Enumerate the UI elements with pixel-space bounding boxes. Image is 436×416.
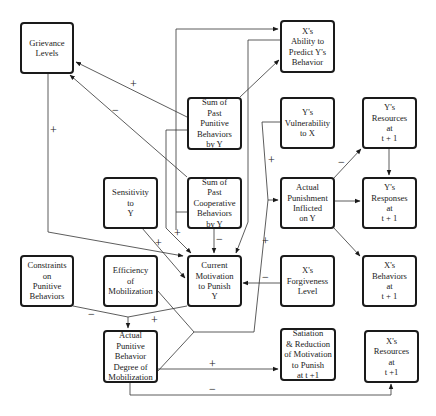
sign-vulnerability-to-punishment: + [268, 154, 275, 166]
node-actual-punishment: Actual Punishment Inflicted on Y [280, 177, 335, 229]
node-y-vulnerability: Y's Vulnerability to X [280, 97, 335, 149]
sign-motivation-to-behavior: + [151, 314, 158, 326]
sign-punitive-to-motivation: + [174, 227, 181, 239]
node-label: Sum of Past Cooperative Behaviors by Y [194, 177, 236, 229]
node-y-responses: Y's Responses at t + 1 [362, 177, 417, 229]
node-x-resources: X's Resources at t +1 [364, 330, 419, 383]
node-label: Actual Punishment Inflicted on Y [287, 182, 328, 224]
causal-diagram: Grievance Levels X's Ability to Predict … [0, 0, 436, 416]
node-grievance-levels: Grievance Levels [20, 22, 74, 74]
sign-constraints-to-behavior: − [88, 308, 95, 320]
sign-cooperative-to-motivation: − [216, 233, 223, 245]
sign-sensitivity-to-motivation: + [155, 237, 162, 249]
node-label: X's Resources at t +1 [374, 336, 409, 378]
node-label: Grievance Levels [29, 38, 64, 59]
arrow-behavior-to-x-resources [130, 382, 391, 395]
node-label: Sum of Past Punitive Behaviors by Y [197, 97, 232, 149]
sign-grievance-to-motivation: + [50, 124, 57, 136]
node-forgiveness: X's Forgiveness Level [280, 255, 335, 307]
node-sensitivity: Sensitivity to Y [103, 177, 158, 229]
sign-forgiveness-to-motivation: − [262, 271, 269, 283]
sign-punitive-to-grievance: + [130, 78, 137, 90]
sign-cooperative-to-grievance: − [112, 104, 119, 116]
node-label: Y's Vulnerability to X [285, 107, 330, 138]
sign-behavior-to-punishment: + [262, 235, 269, 247]
node-x-behaviors: X's Behaviors at t + 1 [362, 255, 417, 307]
node-current-motivation: Current Motivation to Punish Y [187, 255, 242, 307]
node-sum-cooperative: Sum of Past Cooperative Behaviors by Y [187, 177, 242, 229]
node-sum-punitive: Sum of Past Punitive Behaviors by Y [187, 97, 242, 150]
node-label: X's Ability to Predict Y's Behavior [289, 26, 326, 68]
node-label: Constraints on Punitive Behaviors [27, 260, 66, 302]
arrow-cooperative-to-grievance [70, 75, 187, 177]
node-label: Satiation & Reduction of Motivation to P… [284, 328, 332, 380]
arrow-punishment-to-x-behaviors [333, 227, 360, 256]
sign-behavior-to-satiation: + [209, 358, 216, 370]
node-constraints: Constraints on Punitive Behaviors [20, 255, 74, 307]
node-label: Current Motivation to Punish Y [195, 260, 233, 302]
node-actual-punitive-behavior: Actual Punitive Behavior Degree of Mobil… [103, 330, 158, 383]
node-efficiency: Efficiency of Mobilization [103, 255, 158, 307]
node-y-resources: Y's Resources at t + 1 [362, 97, 417, 149]
node-label: X's Behaviors at t + 1 [372, 260, 407, 302]
arrow-ability-to-motivation [236, 40, 280, 253]
node-label: Y's Resources at t + 1 [372, 102, 407, 144]
node-label: Actual Punitive Behavior Degree of Mobil… [108, 330, 152, 382]
node-label: Sensitivity to Y [112, 187, 149, 218]
node-label: X's Forgiveness Level [287, 265, 328, 296]
sign-punishment-to-y-resources: − [338, 156, 345, 168]
node-satiation: Satiation & Reduction of Motivation to P… [280, 328, 336, 381]
arrow-punitive-to-ability [240, 60, 279, 97]
node-label: Y's Responses at t + 1 [371, 182, 407, 224]
node-label: Efficiency of Mobilization [108, 265, 152, 296]
node-ability-to-predict: X's Ability to Predict Y's Behavior [280, 20, 335, 73]
sign-behavior-to-x-resources: − [209, 383, 216, 395]
arrow-constraints-to-behavior [73, 306, 128, 328]
